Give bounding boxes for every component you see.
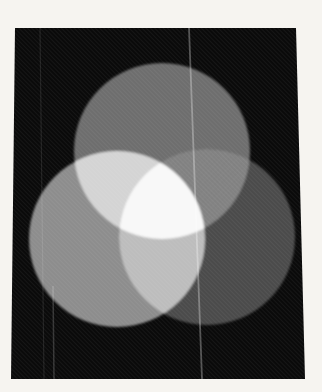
venn-figure (11, 28, 305, 379)
film-grain (11, 28, 305, 379)
scratch-line (53, 286, 54, 379)
book-page (0, 0, 322, 392)
photograph-light-mixing (11, 28, 305, 379)
